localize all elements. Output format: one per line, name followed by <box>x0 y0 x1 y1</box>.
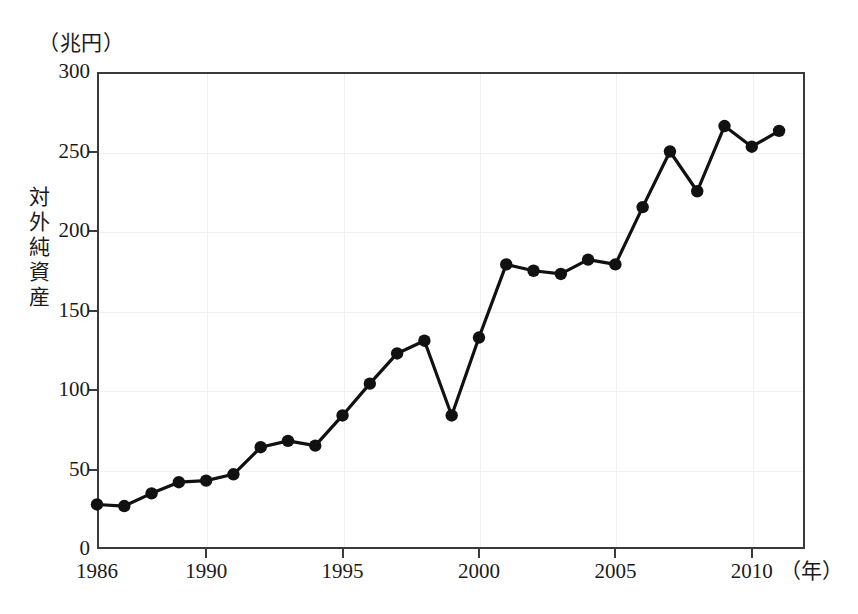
y-axis-tick-label: 300 <box>30 61 90 82</box>
y-axis-title-char-3: 資 <box>26 260 52 285</box>
y-axis-title: 対外純資産 <box>26 185 52 310</box>
x-axis-tick-label: 1995 <box>322 560 364 583</box>
x-axis-tick-label: 2000 <box>458 560 500 583</box>
y-axis-tick-label: 50 <box>30 459 90 480</box>
vertical-gridline <box>207 74 208 547</box>
vertical-gridline <box>753 74 754 547</box>
vertical-gridline <box>616 74 617 547</box>
x-axis-tick-mark <box>478 549 480 558</box>
y-axis-tick-label: 200 <box>30 220 90 241</box>
horizontal-gridline <box>99 312 803 313</box>
y-axis-unit-label: （兆円） <box>38 26 124 56</box>
y-axis-tick-label: 0 <box>30 538 90 559</box>
horizontal-gridline <box>99 232 803 233</box>
vertical-gridline <box>344 74 345 547</box>
horizontal-gridline <box>99 471 803 472</box>
x-axis-tick-mark <box>751 549 753 558</box>
y-axis-tick-mark <box>89 469 98 471</box>
x-axis-tick-mark <box>205 549 207 558</box>
x-axis-tick-label: 2005 <box>594 560 636 583</box>
y-axis-tick-mark <box>89 151 98 153</box>
plot-area <box>97 72 805 549</box>
y-axis-tick-mark <box>89 310 98 312</box>
y-axis-tick-mark <box>89 389 98 391</box>
y-axis-tick-label: 100 <box>30 379 90 400</box>
horizontal-gridline <box>99 391 803 392</box>
x-axis-tick-label: 2010 <box>731 560 773 583</box>
y-axis-tick-label: 250 <box>30 141 90 162</box>
x-axis-tick-label: 1990 <box>185 560 227 583</box>
vertical-gridline <box>480 74 481 547</box>
y-axis-tick-label: 150 <box>30 300 90 321</box>
horizontal-gridline <box>99 153 803 154</box>
y-axis-tick-mark <box>89 230 98 232</box>
x-axis-tick-label: 1986 <box>76 560 118 583</box>
x-axis-tick-mark <box>614 549 616 558</box>
x-axis-unit-label: （年） <box>780 560 843 583</box>
chart-page: （兆円） 対外純資産 05010015020025030019861990199… <box>0 0 858 614</box>
y-axis-title-char-0: 対 <box>26 185 52 210</box>
x-axis-tick-mark <box>342 549 344 558</box>
